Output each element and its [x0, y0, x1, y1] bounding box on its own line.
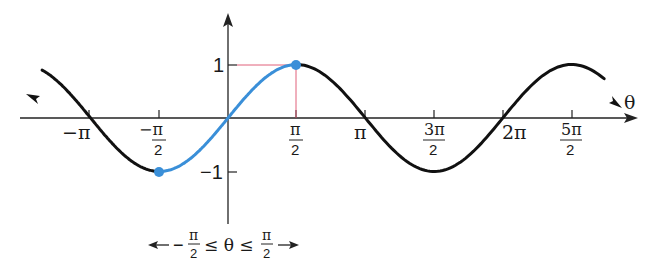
x-axis-label-theta: θ	[624, 91, 635, 113]
x-label-pi: π	[354, 121, 367, 143]
svg-text:2: 2	[190, 246, 197, 261]
x-label-pi-over-2-den: 2	[291, 141, 299, 158]
x-label-neg-pi-over-2-num: −π	[139, 120, 163, 139]
sine-graph: 1 −1 −π −π 2 π 2 π 3π 2 2π 5π 2 θ − π 2 …	[0, 0, 646, 267]
svg-text:≤ θ ≤: ≤ θ ≤	[204, 235, 254, 255]
left-arrowhead-icon	[26, 94, 40, 104]
svg-text:2: 2	[263, 246, 270, 261]
y-label-1: 1	[213, 54, 224, 76]
x-label-neg-pi-over-2-den: 2	[154, 141, 162, 158]
point-min	[154, 167, 164, 177]
x-label-3pi-over-2-den: 2	[429, 141, 437, 158]
x-label-pi-over-2-num: π	[290, 120, 301, 139]
domain-annotation: − π 2 ≤ θ ≤ π 2	[148, 227, 299, 261]
x-label-5pi-over-2-den: 2	[566, 141, 574, 158]
svg-text:−: −	[173, 235, 184, 255]
svg-text:π: π	[189, 227, 198, 243]
right-arrowhead-icon	[609, 96, 622, 108]
x-label-2pi: 2π	[502, 121, 527, 143]
svg-text:π: π	[262, 227, 271, 243]
x-ticks	[89, 110, 572, 118]
point-max	[291, 60, 301, 70]
x-label-5pi-over-2-num: 5π	[561, 120, 582, 139]
x-label-neg-pi: −π	[62, 121, 90, 143]
y-label-neg1: −1	[200, 161, 223, 183]
x-label-3pi-over-2-num: 3π	[424, 120, 445, 139]
